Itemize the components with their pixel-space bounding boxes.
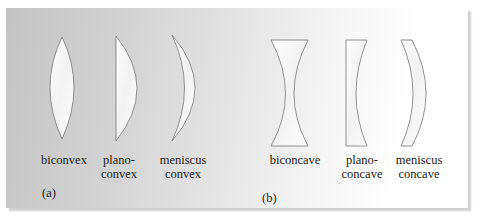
meniscus-concave-lens-icon — [401, 40, 426, 146]
panel-tag-a: (a) — [42, 186, 56, 200]
lens-label-biconvex: biconvex — [36, 153, 92, 167]
biconvex-lens-icon — [50, 37, 74, 139]
lens-label-meniscus-convex: meniscus convex — [152, 153, 214, 181]
lens-label-biconcave: biconcave — [260, 153, 330, 167]
plano-concave-lens-icon — [346, 40, 367, 146]
plano-convex-lens-icon — [116, 36, 137, 141]
lens-label-meniscus-concave: meniscus concave — [389, 153, 449, 181]
lens-diagram — [0, 0, 483, 220]
panel-tag-b: (b) — [262, 191, 277, 205]
biconcave-lens-icon — [271, 40, 308, 146]
lens-label-plano-convex: plano- convex — [98, 153, 140, 181]
lens-label-plano-concave: plano- concave — [332, 153, 392, 181]
meniscus-convex-lens-icon — [172, 35, 195, 141]
